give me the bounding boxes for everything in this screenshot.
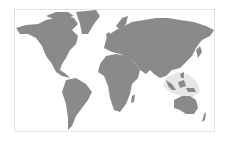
- japan: [196, 46, 202, 58]
- new-zealand: [202, 112, 206, 122]
- continent-north-america: [16, 16, 78, 78]
- continent-australia: [174, 96, 198, 114]
- madagascar: [131, 94, 135, 103]
- world-map: [0, 0, 229, 144]
- continent-south-america: [62, 78, 92, 130]
- continent-africa: [98, 54, 140, 112]
- greenland: [76, 10, 100, 34]
